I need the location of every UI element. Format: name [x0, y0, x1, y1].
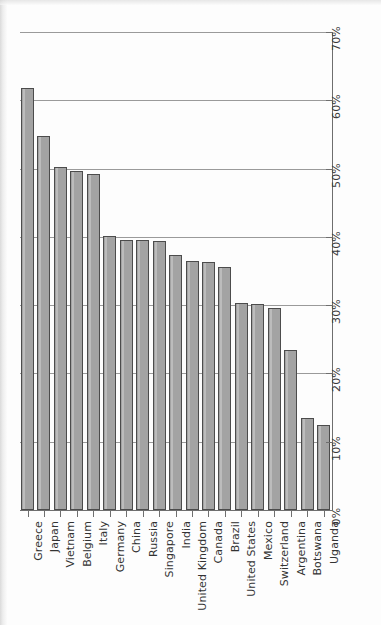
bar-mexico	[251, 304, 264, 510]
x-label-india: India	[180, 521, 193, 549]
bar-argentina	[284, 350, 297, 510]
page-edge-shadow-top	[0, 0, 381, 5]
x-label-belgium: Belgium	[81, 521, 94, 567]
x-label-italy: Italy	[97, 521, 110, 545]
x-tick-mark	[159, 511, 160, 517]
bar-canada	[202, 262, 215, 510]
bar-brazil	[218, 267, 231, 510]
x-tick-mark	[324, 511, 325, 517]
bar-uganda	[317, 425, 330, 510]
y-tick-label: 30%	[330, 290, 343, 334]
x-label-russia: Russia	[147, 521, 160, 557]
x-label-canada: Canada	[212, 521, 225, 563]
bar-china	[120, 240, 133, 510]
x-tick-mark	[44, 511, 45, 517]
x-tick-mark	[28, 511, 29, 517]
y-tick-label: 40%	[330, 221, 343, 265]
y-tick-label: 70%	[330, 17, 343, 61]
x-tick-mark	[93, 511, 94, 517]
bar-united-kingdom	[186, 261, 199, 510]
x-tick-mark	[291, 511, 292, 517]
x-tick-mark	[143, 511, 144, 517]
gridline-70pct	[20, 32, 332, 33]
y-tick-label: 20%	[330, 358, 343, 402]
y-tick-label: 60%	[330, 85, 343, 129]
bar-germany	[103, 236, 116, 511]
x-tick-mark	[77, 511, 78, 517]
x-tick-mark	[110, 511, 111, 517]
x-label-vietnam: Vietnam	[64, 521, 77, 568]
bar-belgium	[70, 171, 83, 510]
bar-singapore	[153, 241, 166, 510]
y-tick-label: 50%	[330, 153, 343, 197]
bar-russia	[136, 240, 149, 510]
x-tick-mark	[258, 511, 259, 517]
x-label-brazil: Brazil	[229, 521, 242, 552]
y-tick-label: 10%	[330, 426, 343, 470]
bar-vietnam	[54, 167, 67, 510]
x-label-united-kingdom: United Kingdom	[196, 521, 209, 611]
bar-india	[169, 255, 182, 510]
bar-greece	[21, 88, 34, 510]
x-tick-mark	[225, 511, 226, 517]
x-label-botswana: Botswana	[311, 521, 324, 576]
x-label-argentina: Argentina	[295, 521, 308, 576]
plot-area	[20, 32, 332, 510]
bar-switzerland	[268, 308, 281, 510]
x-tick-mark	[176, 511, 177, 517]
x-label-uganda: Uganda	[328, 521, 341, 564]
x-label-japan: Japan	[48, 521, 61, 552]
x-tick-mark	[192, 511, 193, 517]
x-tick-mark	[208, 511, 209, 517]
x-label-mexico: Mexico	[262, 521, 275, 560]
x-label-united-states: United States	[245, 521, 258, 597]
x-label-singapore: Singapore	[163, 521, 176, 577]
x-label-china: China	[130, 521, 143, 553]
x-tick-mark	[274, 511, 275, 517]
x-tick-mark	[241, 511, 242, 517]
page-edge-shadow-left	[0, 0, 7, 625]
bar-botswana	[301, 418, 314, 510]
x-label-germany: Germany	[114, 521, 127, 572]
bar-italy	[87, 174, 100, 510]
x-tick-mark	[307, 511, 308, 517]
x-tick-mark	[60, 511, 61, 517]
x-label-switzerland: Switzerland	[278, 521, 291, 586]
bar-japan	[37, 136, 50, 510]
x-label-greece: Greece	[32, 521, 45, 561]
gridline-60pct	[20, 100, 332, 101]
x-tick-mark	[126, 511, 127, 517]
bar-chart: 0%10%20%30%40%50%60%70% GreeceJapanVietn…	[0, 0, 381, 625]
bar-united-states	[235, 303, 248, 510]
